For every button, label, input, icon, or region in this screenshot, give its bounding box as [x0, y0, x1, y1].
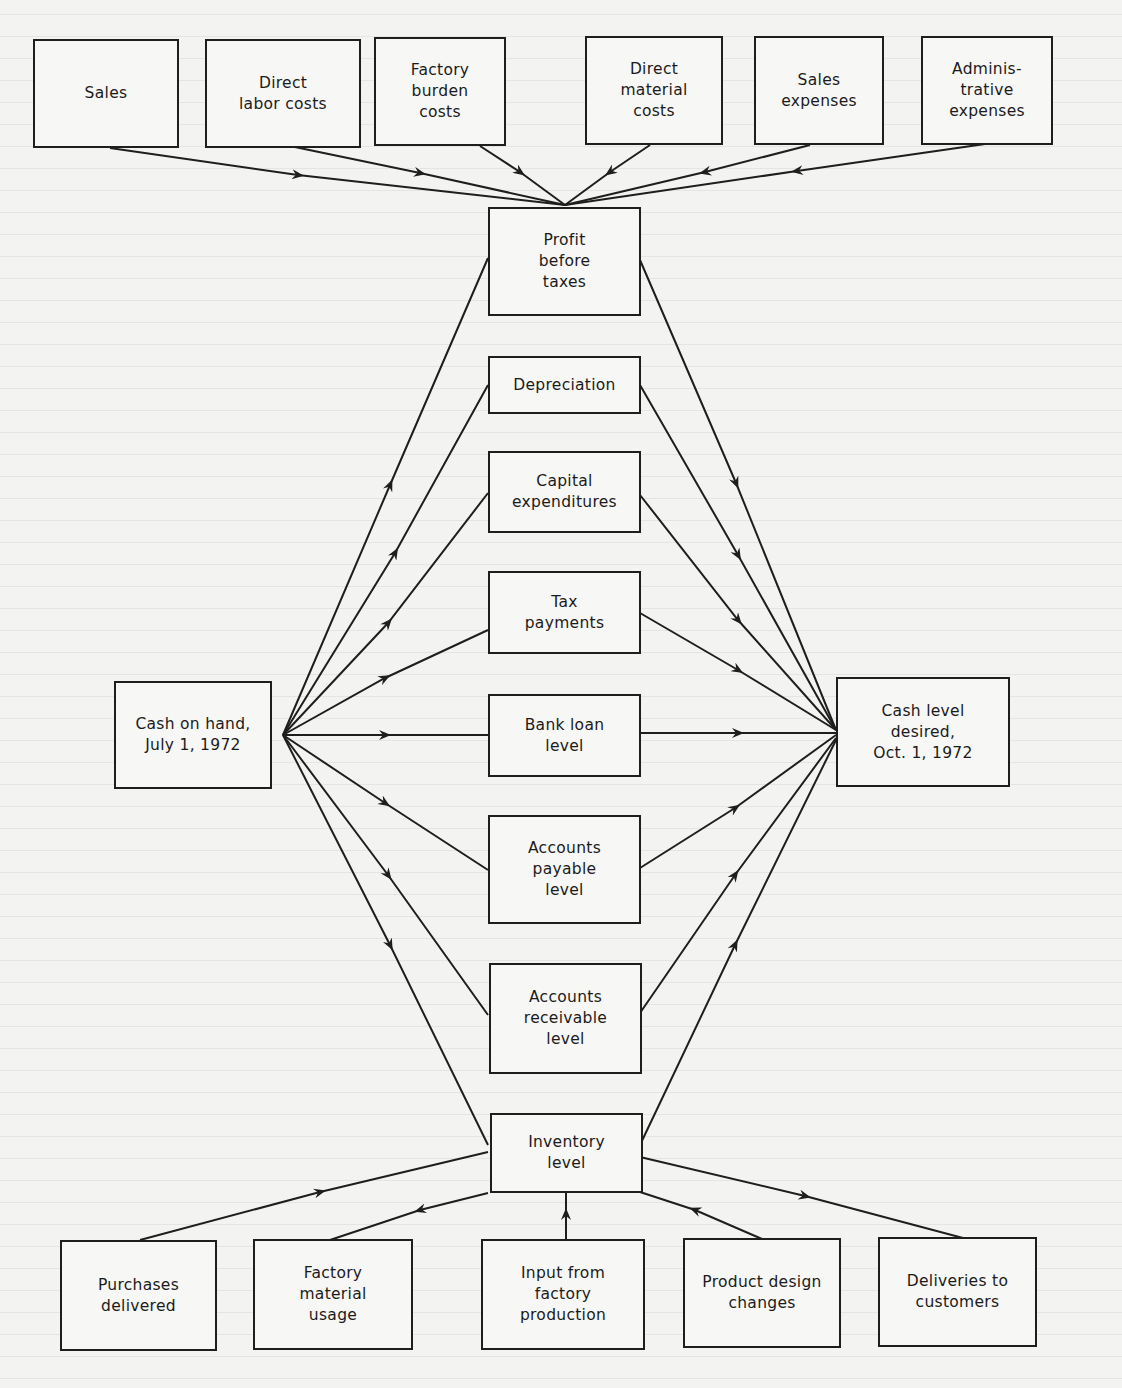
edge-inventory-usage — [330, 1193, 488, 1240]
node-purchases-delivered: Purchases delivered — [60, 1240, 217, 1351]
node-label: Product design changes — [702, 1272, 821, 1314]
node-label: Tax payments — [525, 592, 605, 634]
node-label: Deliveries to customers — [907, 1271, 1008, 1313]
node-label: Adminis- trative expenses — [949, 59, 1025, 122]
node-label: Factory burden costs — [411, 60, 470, 123]
edge-cash-receivable — [283, 735, 488, 1015]
edge-cash-tax — [283, 630, 488, 735]
edge-cash-payable — [283, 735, 488, 870]
edge-cash-inventory — [283, 735, 488, 1145]
edge-capex-desired — [640, 495, 836, 730]
node-product-design-changes: Product design changes — [683, 1238, 841, 1348]
edge-cash-depreciation — [283, 385, 488, 735]
node-label: Input from factory production — [520, 1263, 606, 1326]
node-administrative-expenses: Adminis- trative expenses — [921, 36, 1053, 145]
node-label: Accounts receivable level — [524, 987, 607, 1050]
node-label: Bank loan level — [525, 715, 605, 757]
node-input-from-factory-production: Input from factory production — [481, 1239, 645, 1350]
node-label: Direct labor costs — [239, 73, 327, 115]
node-label: Cash on hand, July 1, 1972 — [135, 714, 250, 756]
node-sales: Sales — [33, 39, 179, 148]
edge-inventory-desired — [640, 740, 836, 1145]
node-label: Cash level desired, Oct. 1, 1972 — [873, 701, 972, 764]
node-inventory-level: Inventory level — [490, 1113, 643, 1193]
node-label: Sales expenses — [781, 70, 857, 112]
node-direct-labor-costs: Direct labor costs — [205, 39, 361, 148]
node-label: Profit before taxes — [539, 230, 591, 293]
node-cash-on-hand: Cash on hand, July 1, 1972 — [114, 681, 272, 789]
edge-tax-desired — [640, 613, 836, 730]
cash-flow-diagram: Sales Direct labor costs Factory burden … — [0, 0, 1122, 1388]
node-depreciation: Depreciation — [488, 356, 641, 414]
node-direct-material-costs: Direct material costs — [585, 36, 723, 145]
node-accounts-receivable-level: Accounts receivable level — [489, 963, 642, 1074]
node-sales-expenses: Sales expenses — [754, 36, 884, 145]
node-label: Purchases delivered — [98, 1275, 179, 1317]
node-label: Sales — [85, 83, 128, 104]
node-accounts-payable-level: Accounts payable level — [488, 815, 641, 924]
node-label: Direct material costs — [620, 59, 687, 122]
node-label: Capital expenditures — [512, 471, 617, 513]
node-deliveries-to-customers: Deliveries to customers — [878, 1237, 1037, 1347]
node-label: Depreciation — [513, 375, 616, 396]
node-cash-level-desired: Cash level desired, Oct. 1, 1972 — [836, 677, 1010, 787]
node-tax-payments: Tax payments — [488, 571, 641, 654]
edge-cash-profit — [283, 258, 488, 735]
node-capital-expenditures: Capital expenditures — [488, 451, 641, 533]
node-profit-before-taxes: Profit before taxes — [488, 207, 641, 316]
edge-purchases-inventory — [140, 1152, 488, 1240]
edge-depreciation-desired — [640, 385, 836, 730]
node-label: Factory material usage — [299, 1263, 366, 1326]
node-factory-burden-costs: Factory burden costs — [374, 37, 506, 146]
node-label: Accounts payable level — [528, 838, 601, 901]
node-bank-loan-level: Bank loan level — [488, 694, 641, 777]
edge-inventory-deliveries — [640, 1157, 963, 1238]
node-label: Inventory level — [528, 1132, 605, 1174]
edge-profit-desired — [640, 260, 836, 730]
edge-design-inventory — [640, 1192, 762, 1239]
edge-receivable-desired — [640, 738, 836, 1013]
node-factory-material-usage: Factory material usage — [253, 1239, 413, 1350]
edge-cash-capex — [283, 493, 488, 735]
